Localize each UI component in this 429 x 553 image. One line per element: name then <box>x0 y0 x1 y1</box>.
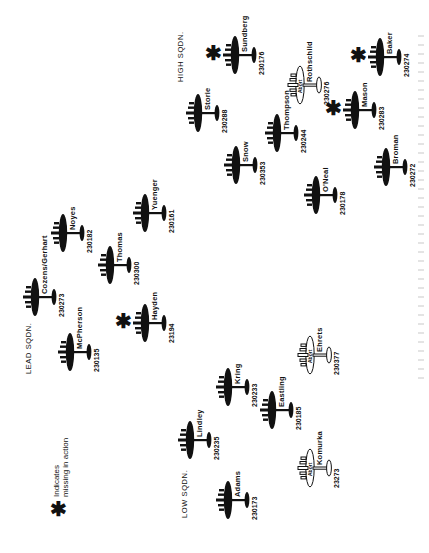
aircraft-storie: Storie230288 <box>184 93 232 133</box>
mia-asterisk-icon: ✱ <box>115 311 132 331</box>
aircraft-serial-label: 230274 <box>403 54 410 77</box>
aircraft-mason: Mason230283✱ <box>341 90 389 130</box>
aircraft-adams: Adams230173 <box>214 480 262 520</box>
aircraft-kring: Kring230233 <box>214 367 262 407</box>
aircraft-serial-label: 23194 <box>168 324 175 343</box>
aircraft-name-label: Hayden <box>150 292 159 320</box>
aircraft-name-label: Cozens/Gerhart <box>40 235 49 294</box>
aircraft-thomas: Thomas230300 <box>96 245 144 285</box>
aircraft-serial-label: 230273 <box>58 294 65 317</box>
aircraft-name-label: Sundberg <box>240 15 249 52</box>
aircraft-name-label: Mason <box>360 82 369 107</box>
mia-asterisk-icon: ✱ <box>325 98 342 118</box>
aircraft-eastling: Eastling230185 <box>258 390 306 430</box>
abort-tag: Abort <box>307 350 313 363</box>
aircraft-serial-label: 230176 <box>258 52 265 75</box>
legend-text: Indicates missing in action <box>52 438 70 497</box>
aircraft-name-label: Snow <box>241 141 250 162</box>
aircraft-serial-label: 230377 <box>333 352 340 375</box>
aircraft-name-label: McPherson <box>75 307 84 349</box>
aircraft-serial-label: 230185 <box>295 407 302 430</box>
aircraft-hayden: Hayden23194✱ <box>131 303 179 343</box>
abort-tag: Abort <box>307 463 313 476</box>
aircraft-serial-label: 230288 <box>221 110 228 133</box>
aircraft-name-label: Kring <box>233 363 242 384</box>
aircraft-name-label: O'Neal <box>321 167 330 192</box>
aircraft-serial-label: 23273 <box>333 469 340 488</box>
aircraft-serial-label: 230173 <box>251 497 258 520</box>
aircraft-baker: Baker230274✱ <box>366 37 414 77</box>
aircraft-komurka: Komurka23273Abort <box>296 448 344 488</box>
aircraft-serial-label: 230233 <box>251 384 258 407</box>
aircraft-name-label: Rothschild <box>305 41 314 82</box>
mia-asterisk-icon: ✱ <box>50 499 67 519</box>
mia-asterisk-icon: ✱ <box>350 45 367 65</box>
abort-tag: Abort <box>297 80 303 93</box>
aircraft-name-label: Thomas <box>115 232 124 262</box>
aircraft-broman: Broman230272 <box>372 147 420 187</box>
aircraft-lindley: Lindley230235 <box>176 420 224 460</box>
aircraft-o-neal: O'Neal230178 <box>302 175 350 215</box>
aircraft-serial-label: 230283 <box>378 107 385 130</box>
squadron-label-low: LOW SQDN. <box>180 470 189 518</box>
aircraft-serial-label: 230182 <box>86 230 93 253</box>
formation-diagram: HIGH SQDN. LEAD SQDN. LOW SQDN. ✱ Indica… <box>0 0 429 553</box>
aircraft-serial-label: 230300 <box>133 262 140 285</box>
legend-line-1: Indicates <box>52 438 61 497</box>
aircraft-serial-label: 230244 <box>300 130 307 153</box>
squadron-label-high: HIGH SQDN. <box>176 31 185 82</box>
aircraft-sundberg: Sundberg230176✱ <box>221 35 269 75</box>
aircraft-name-label: Komurka <box>315 431 324 465</box>
aircraft-name-label: Ehrets <box>315 327 324 352</box>
aircraft-cozens-gerhart: Cozens/Gerhart230273 <box>21 277 69 317</box>
squadron-label-lead: LEAD SQDN. <box>24 323 33 374</box>
aircraft-name-label: Lindley <box>195 409 204 437</box>
aircraft-name-label: Noyes <box>68 206 77 230</box>
aircraft-name-label: Adams <box>233 471 242 497</box>
aircraft-serial-label: 230353 <box>259 162 266 185</box>
aircraft-name-label: Storie <box>203 88 212 110</box>
mia-asterisk-icon: ✱ <box>205 43 222 63</box>
aircraft-name-label: Eastling <box>277 376 286 407</box>
aircraft-mcpherson: McPherson230135 <box>56 332 104 372</box>
aircraft-name-label: Baker <box>385 32 394 54</box>
aircraft-serial-label: 230235 <box>213 437 220 460</box>
aircraft-serial-label: 230178 <box>339 192 346 215</box>
aircraft-ehrets: Ehrets230377Abort <box>296 335 344 375</box>
aircraft-serial-label: 230161 <box>168 210 175 233</box>
aircraft-serial-label: 230272 <box>409 164 416 187</box>
aircraft-thompson: Thompson230244 <box>263 113 311 153</box>
faint-caption <box>418 35 424 385</box>
aircraft-noyes: Noyes230182 <box>49 213 97 253</box>
aircraft-serial-label: 230135 <box>93 349 100 372</box>
aircraft-name-label: Yuenger <box>150 179 159 210</box>
legend-line-2: missing in action <box>61 438 70 497</box>
aircraft-yuenger: Yuenger230161 <box>131 193 179 233</box>
aircraft-name-label: Broman <box>391 134 400 164</box>
